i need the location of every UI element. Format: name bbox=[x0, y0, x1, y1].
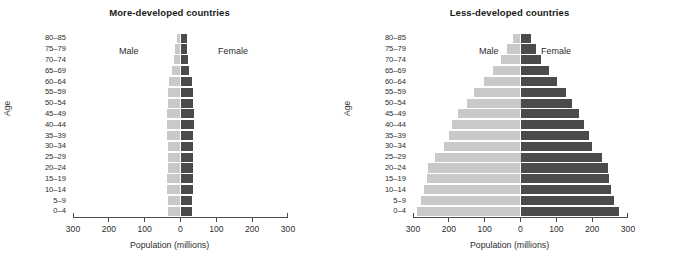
bar-row bbox=[413, 152, 628, 163]
x-axis-tick-label: 300 bbox=[66, 224, 80, 234]
bar-male bbox=[168, 163, 181, 172]
bar-female bbox=[181, 185, 194, 194]
series-label-female: Female bbox=[541, 46, 571, 56]
panel-more-developed: More-developed countries Age 80–8575–797… bbox=[0, 0, 339, 270]
bar-female bbox=[521, 142, 593, 151]
age-tick-label: 75–79 bbox=[385, 45, 406, 53]
plot-area: Male Female bbox=[413, 33, 628, 217]
bar-row bbox=[73, 109, 288, 120]
bar-female bbox=[181, 66, 190, 75]
bar-row bbox=[73, 195, 288, 206]
x-axis-tick bbox=[592, 218, 593, 222]
bar-female bbox=[521, 99, 573, 108]
bar-row bbox=[413, 141, 628, 152]
bar-female bbox=[181, 88, 194, 97]
age-tick-label: 5–9 bbox=[393, 197, 406, 205]
bar-row bbox=[73, 98, 288, 109]
age-tick-label: 80–85 bbox=[45, 34, 66, 42]
age-tick-label: 65–69 bbox=[45, 67, 66, 75]
bar-female bbox=[521, 185, 611, 194]
bar-row bbox=[73, 55, 288, 66]
x-axis-tick bbox=[448, 218, 449, 222]
age-tick-label: 15–19 bbox=[45, 175, 66, 183]
plot-area: Male Female bbox=[73, 33, 288, 217]
bar-female bbox=[181, 55, 189, 64]
x-axis-title: Population (millions) bbox=[0, 240, 339, 250]
panel-title: More-developed countries bbox=[0, 7, 339, 18]
x-axis-tick bbox=[556, 218, 557, 222]
population-pyramid-figure: More-developed countries Age 80–8575–797… bbox=[0, 0, 679, 270]
age-tick-label: 45–49 bbox=[385, 110, 406, 118]
bar-row bbox=[413, 130, 628, 141]
age-tick-label: 40–44 bbox=[385, 121, 406, 129]
bar-female bbox=[181, 196, 193, 205]
bar-male bbox=[168, 99, 181, 108]
bar-female bbox=[521, 120, 585, 129]
bar-male bbox=[493, 66, 521, 75]
bar-male bbox=[172, 66, 180, 75]
x-axis-tick bbox=[252, 218, 253, 222]
age-tick-label: 30–34 bbox=[385, 142, 406, 150]
bar-row bbox=[73, 130, 288, 141]
age-tick-label: 5–9 bbox=[53, 197, 66, 205]
bar-male bbox=[167, 131, 181, 140]
x-axis-tick-label: 100 bbox=[209, 224, 223, 234]
bar-male bbox=[513, 34, 521, 43]
age-tick-label: 10–14 bbox=[385, 186, 406, 194]
x-axis-tick-label: 100 bbox=[137, 224, 151, 234]
age-tick-label: 20–24 bbox=[45, 164, 66, 172]
bar-female bbox=[181, 77, 192, 86]
bar-row bbox=[73, 152, 288, 163]
bar-female bbox=[181, 163, 194, 172]
bar-male bbox=[421, 196, 521, 205]
bar-row bbox=[413, 185, 628, 196]
x-axis-tick bbox=[180, 218, 181, 222]
bar-male bbox=[449, 131, 521, 140]
bar-row bbox=[73, 65, 288, 76]
x-axis-tick-label: 0 bbox=[518, 224, 523, 234]
bar-male bbox=[168, 207, 181, 216]
bar-male bbox=[467, 99, 521, 108]
bar-row bbox=[73, 141, 288, 152]
x-axis-tick-label: 100 bbox=[477, 224, 491, 234]
bar-male bbox=[167, 185, 180, 194]
age-tick-label: 55–59 bbox=[385, 88, 406, 96]
bar-row bbox=[73, 120, 288, 131]
bar-row bbox=[413, 174, 628, 185]
age-tick-label: 40–44 bbox=[45, 121, 66, 129]
bar-female bbox=[521, 163, 608, 172]
bar-row bbox=[413, 120, 628, 131]
bar-row bbox=[413, 65, 628, 76]
bar-female bbox=[521, 66, 550, 75]
bar-female bbox=[521, 88, 567, 97]
bar-female bbox=[181, 131, 194, 140]
bar-male bbox=[501, 55, 521, 64]
age-tick-label: 20–24 bbox=[385, 164, 406, 172]
x-axis-tick-label: 200 bbox=[442, 224, 456, 234]
bar-female bbox=[521, 55, 542, 64]
bar-female bbox=[521, 131, 589, 140]
age-tick-label: 0–4 bbox=[53, 207, 66, 215]
bar-female bbox=[181, 99, 194, 108]
age-tick-label: 80–85 bbox=[385, 34, 406, 42]
age-tick-label: 10–14 bbox=[45, 186, 66, 194]
bar-female bbox=[181, 120, 194, 129]
age-tick-label: 65–69 bbox=[385, 67, 406, 75]
series-label-male: Male bbox=[119, 46, 139, 56]
age-tick-label: 25–29 bbox=[385, 153, 406, 161]
bar-female bbox=[521, 109, 579, 118]
x-axis-tick-label: 200 bbox=[245, 224, 259, 234]
bar-male bbox=[428, 163, 520, 172]
x-axis-tick-label: 200 bbox=[102, 224, 116, 234]
panel-title: Less-developed countries bbox=[340, 7, 679, 18]
bar-male bbox=[168, 196, 181, 205]
age-tick-label: 60–64 bbox=[45, 78, 66, 86]
series-label-male: Male bbox=[479, 46, 499, 56]
x-axis-title: Population (millions) bbox=[340, 240, 679, 250]
x-axis-cap-right bbox=[627, 213, 628, 218]
bar-male bbox=[427, 174, 521, 183]
age-tick-label: 35–39 bbox=[45, 132, 66, 140]
x-axis-tick-label: 300 bbox=[406, 224, 420, 234]
bar-female bbox=[521, 196, 615, 205]
bar-male bbox=[167, 174, 180, 183]
